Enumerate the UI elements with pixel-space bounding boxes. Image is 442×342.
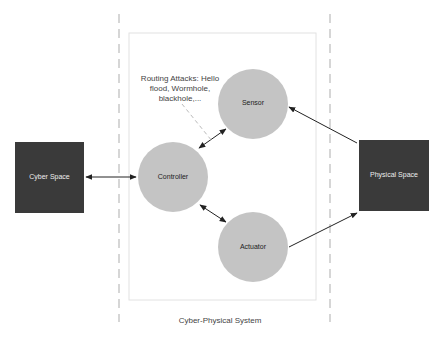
controller-label: Controller <box>138 173 208 180</box>
sensor-label: Sensor <box>218 99 288 106</box>
edge-actuator-physical <box>289 213 357 247</box>
edge-controller-actuator <box>200 205 226 222</box>
routing-attacks-annotation: Routing Attacks: Hello flood, Wormhole, … <box>140 74 220 104</box>
attack-annotation-dashed-line <box>182 104 212 141</box>
diagram-title: Cyber-Physical System <box>160 316 280 325</box>
edge-controller-sensor <box>199 129 226 148</box>
edge-physical-sensor <box>289 107 357 143</box>
cyber-space-label: Cyber Space <box>15 173 84 180</box>
actuator-label: Actuator <box>218 243 288 250</box>
physical-space-label: Physical Space <box>359 171 429 178</box>
